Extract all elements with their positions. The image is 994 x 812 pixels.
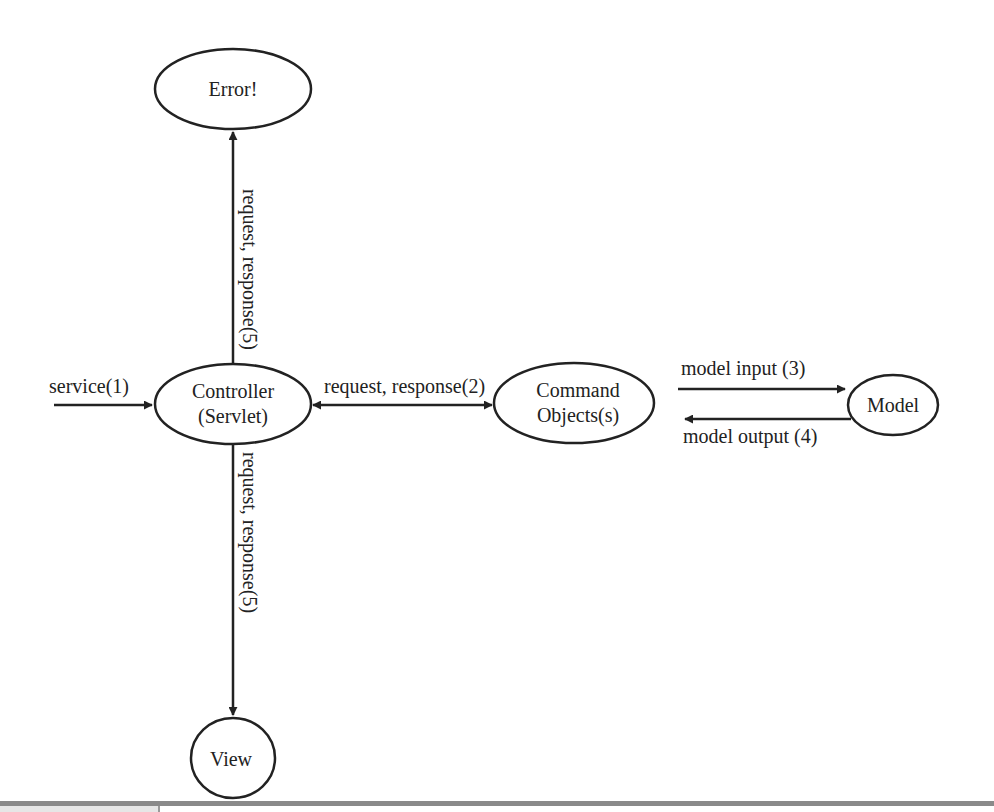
edge-controller-error: request, response(5) bbox=[233, 132, 261, 364]
page-footer-tab bbox=[0, 806, 160, 812]
edge-model-output: model output (4) bbox=[683, 419, 851, 448]
node-command-line2: Objects(s) bbox=[537, 404, 619, 427]
node-view: View bbox=[191, 718, 275, 798]
edge-controller-view: request, response(5) bbox=[233, 444, 261, 715]
edge-model-output-label: model output (4) bbox=[683, 425, 817, 448]
edge-model-input-label: model input (3) bbox=[681, 357, 805, 380]
edge-controller-command-label: request, response(2) bbox=[324, 375, 485, 398]
node-error-label: Error! bbox=[209, 78, 258, 100]
edge-model-input: model input (3) bbox=[678, 357, 845, 389]
node-error: Error! bbox=[155, 49, 311, 129]
edge-service-label: service(1) bbox=[49, 375, 129, 398]
node-command: Command Objects(s) bbox=[494, 363, 654, 443]
edge-controller-error-label: request, response(5) bbox=[238, 189, 261, 350]
node-controller-line2: (Servlet) bbox=[198, 405, 268, 428]
node-view-label: View bbox=[210, 748, 253, 770]
node-controller-line1: Controller bbox=[192, 380, 275, 402]
edge-controller-command: request, response(2) bbox=[313, 375, 492, 405]
edge-controller-view-label: request, response(5) bbox=[238, 452, 261, 613]
node-model-label: Model bbox=[867, 394, 920, 416]
node-controller: Controller (Servlet) bbox=[155, 364, 311, 444]
mvc-diagram: Error! Controller (Servlet) Command Obje… bbox=[0, 0, 994, 812]
node-model: Model bbox=[848, 375, 938, 435]
edge-service: service(1) bbox=[49, 375, 152, 405]
node-command-line1: Command bbox=[536, 379, 619, 401]
